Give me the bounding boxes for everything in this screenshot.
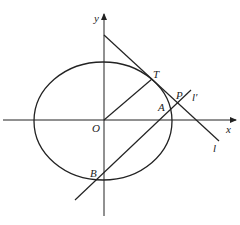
origin-label: O <box>92 122 100 134</box>
line-l-label: l <box>213 142 216 154</box>
ellipse-diagram: y x O T P A B l l′ <box>0 0 240 225</box>
point-t-label: T <box>153 68 160 80</box>
tangent-line-l <box>104 35 219 141</box>
segment-ot <box>104 79 152 120</box>
line-l-prime-label: l′ <box>192 91 198 103</box>
diagram-canvas: y x O T P A B l l′ <box>0 0 240 225</box>
point-p-label: P <box>175 89 183 101</box>
y-axis-label: y <box>93 12 99 24</box>
point-b-label: B <box>90 167 97 179</box>
point-a-label: A <box>157 101 165 113</box>
x-axis-label: x <box>225 123 231 135</box>
line-l-prime <box>75 90 191 200</box>
